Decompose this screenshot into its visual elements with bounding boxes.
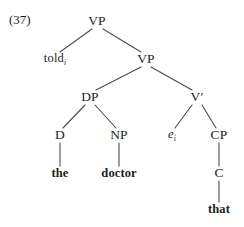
tree-edge-dp-to-d bbox=[63, 105, 85, 128]
tree-edge-vbar-to-trace bbox=[175, 105, 192, 128]
tree-node-label: that bbox=[208, 202, 230, 216]
tree-node-label: doctor bbox=[101, 166, 136, 180]
tree-node-label: the bbox=[52, 166, 69, 180]
tree-edge-vp-inner-to-dp bbox=[96, 67, 141, 90]
tree-edge-vp-inner-to-vbar bbox=[151, 67, 192, 90]
syntax-tree-figure: (37) VPtoldiVPDPV′DNPeiCPthedoctorCthat bbox=[0, 0, 244, 227]
tree-node-the: the bbox=[52, 167, 69, 180]
tree-node-label: NP bbox=[110, 127, 128, 142]
tree-branch-lines bbox=[0, 0, 244, 227]
tree-edge-dp-to-np bbox=[95, 105, 116, 128]
tree-edge-vbar-to-cp bbox=[202, 105, 216, 128]
tree-node-dp: DP bbox=[81, 90, 99, 104]
tree-node-label: VP bbox=[88, 13, 106, 28]
tree-edge-vp-root-to-vp-inner bbox=[103, 29, 141, 52]
tree-node-doctor: doctor bbox=[101, 167, 136, 180]
tree-node-label: C bbox=[214, 165, 223, 180]
tree-node-label: D bbox=[55, 127, 65, 142]
tree-node-label: told bbox=[44, 51, 64, 65]
tree-node-label: DP bbox=[81, 89, 99, 104]
tree-node-trace: ei bbox=[168, 128, 176, 143]
prime-mark: ′ bbox=[200, 89, 203, 104]
tree-node-told: toldi bbox=[44, 52, 66, 67]
tree-node-vbar: V′ bbox=[190, 90, 203, 104]
tree-node-cp: CP bbox=[211, 128, 228, 142]
tree-node-np: NP bbox=[110, 128, 128, 142]
index-subscript: i bbox=[174, 134, 176, 143]
tree-edge-vp-root-to-told bbox=[60, 29, 92, 52]
tree-node-label: VP bbox=[137, 51, 155, 66]
tree-node-vp-inner: VP bbox=[137, 52, 155, 66]
index-subscript: i bbox=[64, 58, 66, 67]
tree-node-c: C bbox=[214, 166, 223, 180]
tree-node-label: CP bbox=[211, 127, 228, 142]
tree-node-d: D bbox=[55, 128, 65, 142]
tree-node-vp-root: VP bbox=[88, 14, 106, 28]
tree-node-label: V bbox=[190, 89, 200, 104]
tree-node-that: that bbox=[208, 203, 230, 216]
